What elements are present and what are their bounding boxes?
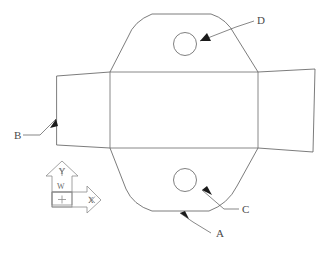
- callout-a-arrowhead: [180, 211, 189, 219]
- callout-c-arrowhead: [202, 186, 212, 195]
- callout-b-label: B: [14, 129, 22, 141]
- callout-a: A: [180, 211, 224, 239]
- wcs-x-axis-label: X: [88, 196, 94, 205]
- wcs-y-axis-label: Y: [59, 167, 65, 176]
- wcs-origin-plus-icon: [58, 196, 66, 204]
- technical-drawing-canvas: D B C A: [0, 0, 325, 256]
- wcs-system-label: W: [57, 182, 65, 191]
- callout-b: B: [14, 119, 58, 141]
- callout-d-label: D: [257, 14, 265, 26]
- callout-c-leader: [202, 190, 239, 209]
- part-outline: [57, 14, 315, 211]
- callout-d: D: [200, 14, 265, 41]
- drawing-viewport: D B C A: [0, 0, 325, 256]
- wcs-symbol: Y W X: [46, 161, 101, 213]
- callout-c-label: C: [242, 203, 250, 215]
- top-hole-circle: [174, 33, 197, 56]
- fold-line-group: [110, 72, 258, 148]
- callout-a-label: A: [216, 227, 224, 239]
- bottom-hole-circle: [174, 169, 197, 192]
